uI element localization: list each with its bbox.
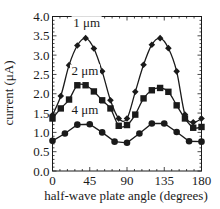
plot-border	[53, 17, 202, 172]
diamond-marker	[173, 68, 180, 75]
series-layer	[49, 35, 205, 146]
y-tick-label: 1.0	[33, 125, 49, 140]
y-tick-label: 2.5	[33, 67, 49, 82]
y-tick-label: 2.0	[33, 86, 49, 101]
diamond-marker	[132, 89, 139, 96]
x-axis-tick-labels: 04590135180	[49, 173, 211, 188]
square-marker	[74, 82, 80, 88]
y-tick-label: 1.5	[33, 106, 49, 121]
series-labels: 1 μm2 μm4 μm	[70, 15, 102, 117]
square-marker	[49, 115, 55, 121]
square-marker	[132, 111, 138, 117]
circle-marker	[62, 130, 69, 137]
square-marker	[157, 85, 163, 91]
series-label: 1 μm	[73, 15, 100, 30]
y-tick-label: 4.0	[33, 9, 49, 24]
square-marker	[99, 97, 105, 103]
x-tick-label: 180	[192, 173, 212, 188]
x-tick-label: 45	[83, 173, 96, 188]
diamond-marker	[140, 61, 147, 68]
x-tick-label: 135	[155, 173, 175, 188]
circle-marker	[186, 138, 193, 145]
circle-marker	[74, 121, 81, 128]
square-marker	[58, 105, 64, 111]
circle-marker	[86, 121, 93, 128]
circle-marker	[149, 120, 156, 127]
square-marker	[140, 95, 146, 101]
chart: 0.00.51.01.52.02.53.03.54.0 04590135180 …	[0, 0, 220, 209]
y-axis-label: current (μA)	[1, 60, 16, 125]
axis-ticks	[53, 17, 202, 172]
y-tick-label: 3.0	[33, 48, 49, 63]
diamond-marker	[57, 93, 64, 100]
square-marker	[165, 89, 171, 95]
x-tick-label: 90	[121, 173, 134, 188]
series-label: 4 μm	[72, 102, 99, 117]
circle-marker	[161, 120, 168, 127]
y-tick-label: 0.0	[33, 164, 49, 179]
circle-marker	[49, 138, 56, 145]
y-tick-label: 0.5	[33, 144, 49, 159]
square-marker	[173, 102, 179, 108]
plot-frame	[53, 17, 202, 172]
square-marker	[149, 87, 155, 93]
circle-marker	[124, 140, 131, 147]
series-label: 2 μm	[72, 63, 99, 78]
diamond-marker	[91, 45, 98, 52]
y-axis-tick-labels: 0.00.51.01.52.02.53.03.54.0	[33, 9, 49, 179]
circle-marker	[111, 138, 118, 145]
square-marker	[190, 125, 196, 131]
square-marker	[91, 88, 97, 94]
square-marker	[82, 82, 88, 88]
circle-marker	[198, 138, 205, 145]
diamond-marker	[107, 97, 114, 104]
x-axis-label: half-wave plate angle (degrees)	[44, 188, 208, 203]
square-marker	[124, 122, 130, 128]
square-marker	[182, 115, 188, 121]
diamond-marker	[157, 35, 164, 42]
square-marker	[116, 123, 122, 129]
circle-marker	[136, 130, 143, 137]
diamond-marker	[74, 42, 81, 49]
y-tick-label: 3.5	[33, 28, 49, 43]
diamond-marker	[82, 35, 89, 42]
x-tick-label: 0	[49, 173, 56, 188]
square-marker	[107, 105, 113, 111]
diamond-marker	[165, 45, 172, 52]
circle-marker	[99, 129, 106, 136]
circle-marker	[173, 129, 180, 136]
square-marker	[198, 124, 204, 130]
